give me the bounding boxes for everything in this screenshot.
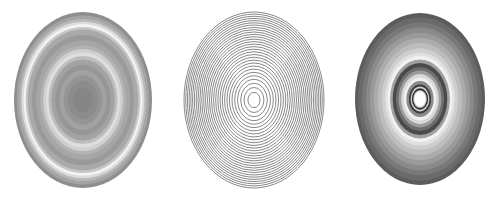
- ellipse-ring: [225, 63, 284, 137]
- ellipse-ring: [241, 83, 268, 117]
- ellipse-band: [73, 88, 92, 113]
- ellipse-ring: [189, 18, 319, 181]
- ellipse-ring: [194, 25, 313, 175]
- ellipse-ring: [209, 44, 298, 156]
- ellipse-ring: [204, 37, 305, 164]
- ellipse-ring: [244, 87, 264, 112]
- line-ring-ellipse-middle: [184, 12, 324, 188]
- ellipse-ring: [218, 55, 290, 146]
- ellipse-ring: [238, 79, 271, 120]
- ellipse-ring: [186, 14, 323, 186]
- ellipse-ring: [208, 42, 301, 159]
- ellipse-ring: [198, 30, 310, 171]
- ellipse-ring: [193, 23, 316, 177]
- ellipse-ring: [229, 69, 278, 131]
- ellipse-band: [414, 91, 426, 106]
- figure-canvas: [0, 0, 498, 198]
- banded-ellipse-left: [14, 12, 152, 188]
- ellipse-ring: [184, 12, 324, 188]
- ellipse-ring: [220, 57, 288, 142]
- banded-ellipse-right: [355, 13, 485, 185]
- ellipse-ring: [248, 92, 260, 107]
- ellipse-ring: [232, 72, 276, 127]
- ellipse-ring: [214, 49, 295, 151]
